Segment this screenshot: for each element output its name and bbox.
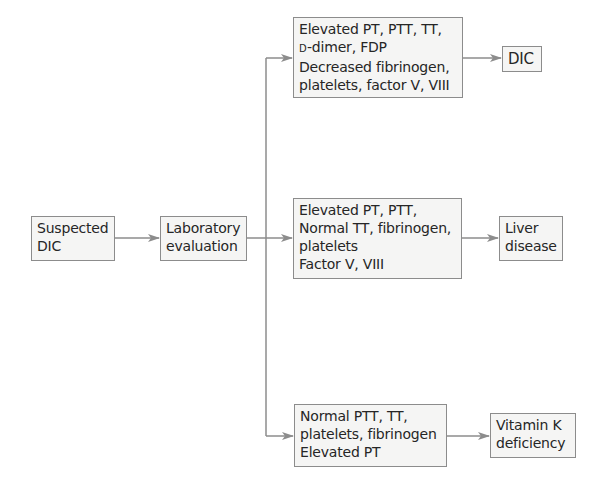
node-text: Factor V, VIII [299,255,456,273]
node-text: evaluation [166,237,241,255]
node-text: DIC [508,49,536,69]
node-dic: DIC [502,46,542,72]
node-text: Suspected [37,219,109,237]
node-liver-disease: Liver disease [499,216,563,261]
node-vitk-findings: Normal PTT, TT, platelets, fibrinogen El… [294,404,447,467]
node-laboratory-evaluation: Laboratory evaluation [160,216,247,261]
node-text: Elevated PT [300,443,441,461]
node-text: Decreased fibrinogen, [299,58,457,76]
node-text: DIC [37,237,109,255]
node-vitamin-k-deficiency: Vitamin K deficiency [490,413,576,458]
node-text: platelets, factor V, VIII [299,76,457,94]
node-text: Laboratory [166,219,241,237]
node-text: deficiency [496,434,570,452]
node-text-dimer: D-dimer, FDP [299,38,457,58]
node-text: disease [505,237,557,255]
node-text: -dimer, FDP [307,39,387,55]
node-text: platelets [299,237,456,255]
node-liver-findings: Elevated PT, PTT, Normal TT, fibrinogen,… [293,198,462,279]
node-suspected-dic: Suspected DIC [31,216,115,261]
node-dic-findings: Elevated PT, PTT, TT, D-dimer, FDP Decre… [293,17,463,98]
node-text: Elevated PT, PTT, [299,201,456,219]
node-text: platelets, fibrinogen [300,425,441,443]
node-text: Elevated PT, PTT, TT, [299,20,457,38]
d-prefix: D [299,43,307,54]
node-text: Vitamin K [496,416,570,434]
node-text: Normal TT, fibrinogen, [299,219,456,237]
node-text: Liver [505,219,557,237]
node-text: Normal PTT, TT, [300,407,441,425]
